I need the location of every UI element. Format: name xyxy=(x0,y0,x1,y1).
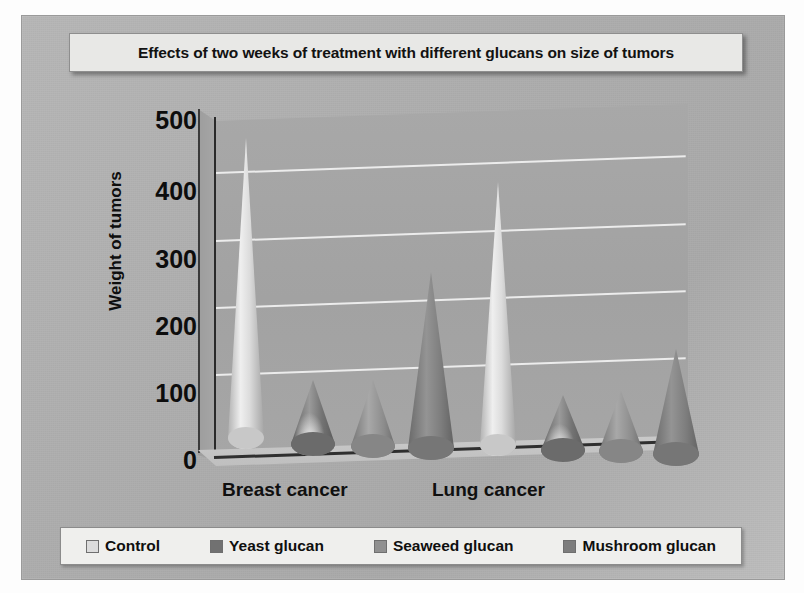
legend-item-control[interactable]: Control xyxy=(86,537,160,555)
cone-shape xyxy=(596,391,646,465)
cone-lung-yeast[interactable] xyxy=(538,395,588,463)
legend-swatch-icon xyxy=(210,540,223,553)
legend-item-yeast-glucan[interactable]: Yeast glucan xyxy=(210,537,324,555)
legend-label: Control xyxy=(105,537,160,555)
chart-title: Effects of two weeks of treatment with d… xyxy=(138,44,674,62)
gridline-400 xyxy=(216,155,686,174)
cone-shape xyxy=(538,395,588,463)
legend-label: Yeast glucan xyxy=(229,537,324,555)
chart-legend: Control Yeast glucan Seaweed glucan Mush… xyxy=(60,527,742,565)
legend-item-mushroom-glucan[interactable]: Mushroom glucan xyxy=(563,537,715,555)
y-tick-500: 500 xyxy=(111,108,197,133)
cone-lung-control[interactable] xyxy=(478,182,518,460)
plot-area xyxy=(198,104,688,472)
legend-label: Seaweed glucan xyxy=(393,537,514,555)
cone-shape xyxy=(405,272,457,462)
legend-label: Mushroom glucan xyxy=(582,537,715,555)
y-axis-line xyxy=(214,117,216,460)
cone-shape xyxy=(650,349,702,467)
legend-item-seaweed-glucan[interactable]: Seaweed glucan xyxy=(374,537,514,555)
y-tick-200: 200 xyxy=(111,314,197,339)
y-tick-0: 0 xyxy=(111,448,197,473)
y-axis-ticks: 500 400 300 200 100 0 xyxy=(82,16,197,576)
cone-lung-mushroom[interactable] xyxy=(650,349,702,467)
y-tick-100: 100 xyxy=(111,381,197,406)
cone-shape xyxy=(226,138,266,454)
cone-breast-seaweed[interactable] xyxy=(348,380,398,460)
gridline-300 xyxy=(216,223,686,242)
cone-breast-mushroom[interactable] xyxy=(405,272,457,462)
chart-screenshot: Effects of two weeks of treatment with d… xyxy=(0,0,804,593)
cone-breast-control[interactable] xyxy=(226,138,266,454)
cone-shape xyxy=(348,380,398,460)
y-tick-300: 300 xyxy=(111,247,197,272)
cone-lung-seaweed[interactable] xyxy=(596,391,646,465)
y-tick-400: 400 xyxy=(111,179,197,204)
x-tick-breast-cancer: Breast cancer xyxy=(222,479,348,501)
y-axis-line-outer xyxy=(198,109,200,453)
legend-swatch-icon xyxy=(86,540,99,553)
cone-shape xyxy=(478,182,518,460)
legend-swatch-icon xyxy=(563,540,576,553)
cone-breast-yeast[interactable] xyxy=(288,380,338,458)
x-tick-lung-cancer: Lung cancer xyxy=(432,479,545,501)
legend-swatch-icon xyxy=(374,540,387,553)
cone-shape xyxy=(288,380,338,458)
chart-panel: Effects of two weeks of treatment with d… xyxy=(21,15,785,580)
